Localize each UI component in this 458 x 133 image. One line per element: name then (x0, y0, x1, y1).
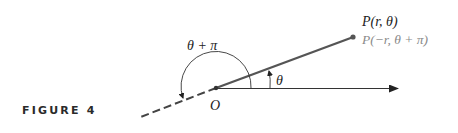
label-angle-large: θ + π (187, 38, 218, 53)
label-point-primary: P(r, θ) (361, 14, 398, 30)
label-origin: O (210, 98, 220, 113)
label-angle-small: θ (276, 73, 283, 88)
ray-to-point (216, 38, 352, 89)
label-point-secondary: P(−r, θ + π) (361, 32, 429, 47)
angle-arc-theta (269, 71, 270, 88)
origin-point (214, 86, 218, 90)
angle-arc-theta-plus-pi (181, 51, 251, 98)
point-p (350, 34, 355, 39)
dashed-extension (138, 88, 216, 118)
figure-caption: FIGURE 4 (22, 104, 97, 117)
